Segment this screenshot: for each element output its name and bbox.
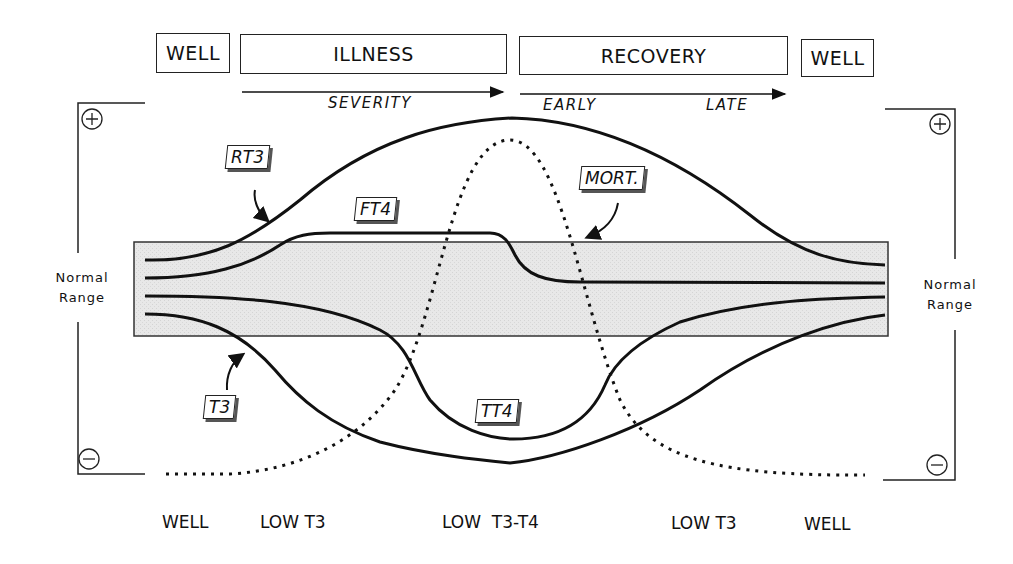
minus-icon-left <box>79 449 99 469</box>
plus-icon-right <box>930 114 950 134</box>
t3-pointer-arrow <box>227 355 242 390</box>
normal-range-label-left: Normal Range <box>44 268 120 308</box>
tt4-tag: TT4 <box>475 399 519 423</box>
normal-range-line1: Normal <box>912 275 988 295</box>
normal-range-line1: Normal <box>44 268 120 288</box>
rt3-tag: RT3 <box>225 145 271 169</box>
minus-icon-right <box>927 455 947 475</box>
phase-illness: ILLNESS <box>240 34 507 74</box>
early-label: EARLY <box>543 96 597 114</box>
phase-well-left: WELL <box>156 33 230 73</box>
stage-low-t3-t4: LOW T3-T4 <box>442 512 539 532</box>
normal-range-label-right: Normal Range <box>912 275 988 315</box>
stage-low-t3-1: LOW T3 <box>260 512 326 532</box>
normal-range-line2: Range <box>912 295 988 315</box>
stage-well-1: WELL <box>162 512 209 532</box>
stage-low-t3-2: LOW T3 <box>671 513 737 533</box>
stage-well-2: WELL <box>804 514 851 534</box>
ft4-tag: FT4 <box>354 197 398 221</box>
rt3-pointer-arrow <box>255 190 267 220</box>
normal-range-band <box>134 242 888 336</box>
phase-well-right: WELL <box>801 39 874 77</box>
t3-tag: T3 <box>203 395 237 419</box>
severity-label: SEVERITY <box>328 94 412 112</box>
phase-recovery: RECOVERY <box>519 36 788 75</box>
mort-pointer-arrow <box>588 203 618 237</box>
normal-range-line2: Range <box>44 288 120 308</box>
late-label: LATE <box>706 96 748 114</box>
diagram-canvas <box>0 0 1013 564</box>
mort-tag: MORT. <box>579 166 645 190</box>
plus-icon-left <box>82 109 102 129</box>
